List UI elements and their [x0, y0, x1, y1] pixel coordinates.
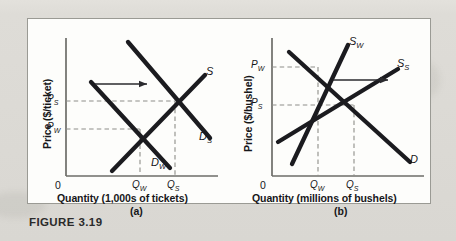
tick-price-ps-b: PS [251, 97, 262, 110]
label-curve-supply-a-base: S [206, 65, 213, 77]
label-curve-supply-summer-b-sub: S [404, 63, 409, 72]
curve-demand-b [289, 52, 410, 162]
tick-price-ps-a: PS [47, 93, 58, 106]
panel-a-graph [29, 19, 230, 205]
tick-quantity-qw-a-sub: W [140, 185, 147, 192]
label-curve-demand-summer-a-base: D [199, 130, 207, 142]
figure-frame: Price ($/ticket) 0 PS PW QW QS S DS [27, 18, 431, 204]
tick-quantity-qs-a-sub: S [175, 185, 180, 192]
tick-price-ps-b-sub: S [258, 103, 263, 110]
page-background: Price ($/ticket) 0 PS PW QW QS S DS [0, 0, 456, 241]
label-curve-demand-b-base: D [410, 153, 418, 165]
panel-a-ylabel: Price ($/ticket) [41, 79, 53, 149]
panel-b-xlabel: Quantity (millions of bushels) [252, 192, 397, 204]
panel-b-origin: 0 [260, 179, 266, 191]
shift-arrow-a [95, 81, 147, 87]
figure-caption: FIGURE 3.19 [29, 216, 102, 228]
tick-price-pw-b-base: P [251, 59, 258, 70]
tick-price-pw-b: PW [251, 59, 264, 72]
panel-a-xlabel: Quantity (1,000s of tickets) [57, 192, 188, 204]
tick-price-ps-b-base: P [251, 97, 258, 108]
label-curve-demand-b: D [410, 153, 418, 168]
tick-quantity-qs-b-base: Q [346, 179, 354, 190]
tick-price-pw-a: PW [47, 121, 60, 134]
tick-quantity-qw-b: QW [310, 179, 324, 192]
tick-price-pw-b-sub: W [258, 65, 265, 72]
tick-quantity-qs-a-base: Q [167, 179, 175, 190]
panel-a-origin: 0 [55, 179, 61, 191]
label-curve-supply-a: S [206, 65, 213, 80]
label-curve-demand-summer-a: DS [199, 130, 212, 145]
label-curve-demand-winter-a: DW [151, 156, 166, 171]
tick-quantity-qw-a-base: Q [132, 179, 140, 190]
panel-a: Price ($/ticket) 0 PS PW QW QS S DS [29, 19, 230, 205]
tick-price-ps-a-sub: S [54, 99, 59, 106]
tick-quantity-qs-a: QS [167, 179, 179, 192]
tick-quantity-qw-b-sub: W [318, 185, 325, 192]
label-curve-supply-summer-b: SS [397, 57, 409, 72]
label-curve-demand-winter-a-base: D [151, 156, 159, 168]
tick-quantity-qw-b-base: Q [310, 179, 318, 190]
panel-b: Price ($/bushel) 0 PW PS QW QS SW SS [230, 19, 431, 205]
panel-b-ylabel: Price ($/bushel) [242, 75, 254, 152]
panel-b-letter: (b) [334, 205, 347, 217]
label-curve-demand-winter-a-sub: W [159, 162, 166, 171]
panel-b-graph [230, 19, 431, 205]
label-curve-supply-winter-b-sub: W [356, 41, 363, 50]
tick-quantity-qw-a: QW [132, 179, 146, 192]
tick-quantity-qs-b-sub: S [354, 185, 359, 192]
label-curve-supply-winter-b: SW [349, 35, 363, 50]
label-curve-demand-summer-a-sub: S [207, 136, 212, 145]
curve-demand-summer-a [128, 42, 210, 138]
panel-a-letter: (a) [130, 205, 143, 217]
tick-quantity-qs-b: QS [346, 179, 358, 192]
tick-price-pw-a-base: P [47, 121, 54, 132]
tick-price-ps-a-base: P [47, 93, 54, 104]
tick-price-pw-a-sub: W [54, 127, 61, 134]
